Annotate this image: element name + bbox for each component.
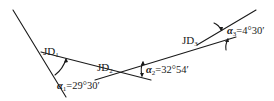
label-jd1: JD1 bbox=[43, 45, 59, 59]
label-alpha3: α3=4°30′ bbox=[227, 25, 264, 38]
label-jd2: JD2 bbox=[97, 61, 113, 75]
label-jd3: JD3 bbox=[182, 34, 198, 48]
arrowhead-alpha2-top bbox=[141, 61, 145, 65]
label-alpha1: α1=29°30′ bbox=[57, 80, 100, 93]
angle-arc-alpha3-upper bbox=[214, 23, 221, 30]
angle-arc-alpha1 bbox=[55, 59, 66, 75]
label-alpha2: α2=32°54′ bbox=[146, 64, 189, 77]
route-alignment-diagram: JD1 JD2 JD3 α1=29°30′ α2=32°54′ α3=4°30′ bbox=[0, 0, 274, 101]
arrowhead-alpha2-bottom bbox=[140, 73, 144, 77]
